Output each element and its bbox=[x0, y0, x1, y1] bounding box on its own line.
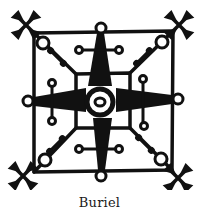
buriel-sigil-icon bbox=[0, 0, 199, 190]
sigil-caption: Buriel bbox=[0, 195, 199, 210]
sigil-figure: Buriel bbox=[0, 0, 199, 221]
